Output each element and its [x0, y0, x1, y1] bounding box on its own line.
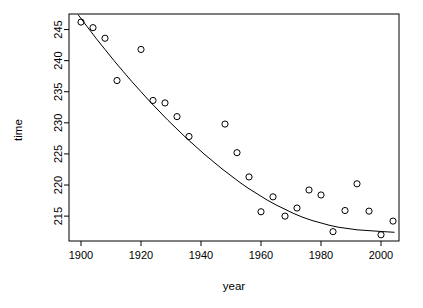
x-tick-label: 1900: [69, 249, 93, 261]
y-tick-label: 225: [52, 145, 64, 163]
chart-canvas: 190019201940196019802000 215220225230235…: [0, 0, 423, 308]
y-tick-label: 235: [52, 83, 64, 101]
x-axis-label: year: [223, 280, 246, 292]
x-tick-label: 2000: [369, 249, 393, 261]
y-axis-label: time: [12, 119, 24, 141]
scatter-plot: 190019201940196019802000 215220225230235…: [0, 0, 423, 308]
y-tick-label: 240: [52, 51, 64, 69]
x-tick-label: 1980: [309, 249, 333, 261]
x-tick-label: 1920: [129, 249, 153, 261]
y-tick-label: 220: [52, 176, 64, 194]
y-tick-label: 245: [52, 20, 64, 38]
y-tick-label: 215: [52, 207, 64, 225]
x-tick-label: 1960: [249, 249, 273, 261]
x-tick-label: 1940: [189, 249, 213, 261]
y-tick-label: 230: [52, 114, 64, 132]
